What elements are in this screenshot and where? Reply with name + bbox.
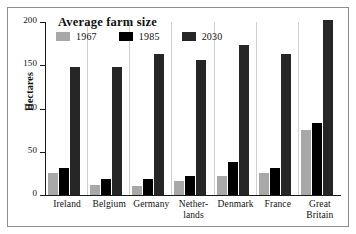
x-axis-label: Ireland <box>46 199 88 210</box>
bar-1967 <box>132 186 142 196</box>
y-tick-mark <box>40 109 45 110</box>
bar-1985 <box>312 123 322 195</box>
legend-label: 1967 <box>76 31 97 42</box>
x-axis-line <box>45 195 341 196</box>
bar-group-bars <box>215 22 257 195</box>
bar-group <box>299 22 341 195</box>
bar-1985 <box>270 168 280 195</box>
bar-2030 <box>154 54 164 195</box>
y-tick-mark <box>40 152 45 153</box>
x-axis-label-line2: lands <box>172 210 214 221</box>
x-axis-label-line2: Britain <box>299 210 341 221</box>
bar-group-bars <box>46 22 88 195</box>
bar-2030 <box>281 54 291 195</box>
bar-1985 <box>59 168 69 195</box>
legend-swatch-icon <box>119 32 133 41</box>
plot-area <box>46 22 341 195</box>
chart-legend: 196719852030 <box>56 31 244 42</box>
x-axis-label: Nether-lands <box>172 199 214 220</box>
bar-1985 <box>101 179 111 195</box>
bar-group-bars <box>130 22 172 195</box>
y-tick-mark <box>40 65 45 66</box>
x-axis-label-line1: Germany <box>130 199 172 210</box>
bar-1967 <box>217 176 227 195</box>
x-axis-label: Germany <box>130 199 172 210</box>
bar-1967 <box>174 181 184 195</box>
bar-group-bars <box>299 22 341 195</box>
bar-group <box>46 22 88 195</box>
bar-group-bars <box>257 22 299 195</box>
bar-1967 <box>48 173 58 195</box>
bar-group <box>130 22 172 195</box>
x-axis-label: France <box>257 199 299 210</box>
bar-2030 <box>196 60 206 195</box>
legend-swatch-icon <box>182 32 196 41</box>
x-axis-label-line1: Belgium <box>88 199 130 210</box>
bar-1985 <box>143 179 153 195</box>
legend-label: 2030 <box>202 31 223 42</box>
x-axis-label-line1: Ireland <box>46 199 88 210</box>
legend-entry-1967: 1967 <box>56 31 97 42</box>
chart-figure: Hectares 050100150200 IrelandBelgiumGerm… <box>0 0 356 234</box>
x-axis-label-line1: France <box>257 199 299 210</box>
y-tick-label: 200 <box>0 15 37 25</box>
bar-1985 <box>185 176 195 195</box>
bar-2030 <box>239 45 249 196</box>
bar-2030 <box>112 67 122 195</box>
bar-group-bars <box>172 22 214 195</box>
chart-title: Average farm size <box>58 15 157 30</box>
x-axis-label: GreatBritain <box>299 199 341 220</box>
y-tick-label: 150 <box>0 58 37 68</box>
y-tick-label: 50 <box>0 145 37 155</box>
bar-1967 <box>259 173 269 195</box>
bar-group-bars <box>88 22 130 195</box>
bar-group <box>172 22 214 195</box>
bar-1985 <box>228 162 238 195</box>
y-tick-label: 0 <box>0 188 37 198</box>
bar-1967 <box>90 185 100 195</box>
legend-swatch-icon <box>56 32 70 41</box>
legend-label: 1985 <box>139 31 160 42</box>
bar-2030 <box>323 20 333 195</box>
legend-entry-2030: 2030 <box>182 31 223 42</box>
x-axis-label-line1: Nether- <box>172 199 214 210</box>
x-axis-label: Denmark <box>215 199 257 210</box>
x-axis-label: Belgium <box>88 199 130 210</box>
y-tick-mark <box>40 22 45 23</box>
bar-group <box>88 22 130 195</box>
bar-group <box>257 22 299 195</box>
y-tick-label: 100 <box>0 102 37 112</box>
x-axis-label-line1: Denmark <box>215 199 257 210</box>
bar-group <box>215 22 257 195</box>
bar-1967 <box>301 130 311 195</box>
legend-entry-1985: 1985 <box>119 31 160 42</box>
x-axis-label-line1: Great <box>299 199 341 210</box>
bar-2030 <box>70 67 80 195</box>
